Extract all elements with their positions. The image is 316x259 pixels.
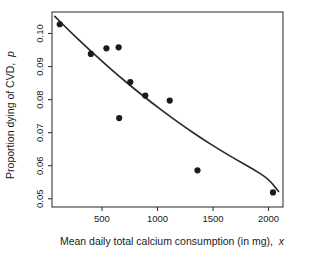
fitted-curve [55, 16, 279, 191]
data-point [270, 189, 276, 195]
plot-frame [52, 12, 283, 207]
y-axis-tick-labels: 0.050.060.070.080.090.10 [34, 24, 45, 208]
y-tick-label: 0.05 [34, 189, 45, 208]
x-axis-title-variable: x [278, 235, 285, 247]
svg-text:Proportion dying of CVD,: Proportion dying of CVD, p [4, 51, 16, 179]
data-point [194, 167, 200, 173]
x-axis-title-text: Mean daily total calcium consumption (in… [60, 235, 273, 247]
data-point [88, 51, 94, 57]
y-axis-title-text: Proportion dying of CVD, [4, 63, 16, 179]
y-axis-title-variable: p [4, 51, 16, 58]
data-point [167, 97, 173, 103]
x-tick-label: 500 [94, 213, 110, 224]
chart-canvas: Proportion dying of CVD, p Mean daily to… [0, 0, 316, 259]
data-point [127, 79, 133, 85]
y-axis-tick-marks [48, 33, 52, 198]
y-tick-label: 0.10 [34, 24, 45, 43]
y-tick-label: 0.08 [34, 90, 45, 109]
svg-text:Mean daily total calcium consu: Mean daily total calcium consumption (in… [60, 235, 285, 247]
data-point [116, 44, 122, 50]
data-point [142, 93, 148, 99]
y-axis-title: Proportion dying of CVD, p [4, 51, 16, 179]
y-tick-label: 0.09 [34, 57, 45, 76]
data-points-group [57, 21, 276, 195]
data-point [57, 21, 63, 27]
x-tick-label: 2000 [258, 213, 279, 224]
x-axis-tick-labels: 500100015002000 [94, 213, 279, 224]
x-tick-label: 1500 [202, 213, 223, 224]
x-axis-title: Mean daily total calcium consumption (in… [60, 235, 285, 247]
data-point [103, 45, 109, 51]
y-tick-label: 0.07 [34, 123, 45, 142]
x-axis-tick-marks [102, 207, 269, 211]
data-point [116, 115, 122, 121]
cvd-calcium-scatter-figure: Proportion dying of CVD, p Mean daily to… [0, 0, 316, 259]
y-tick-label: 0.06 [34, 156, 45, 175]
x-tick-label: 1000 [147, 213, 168, 224]
